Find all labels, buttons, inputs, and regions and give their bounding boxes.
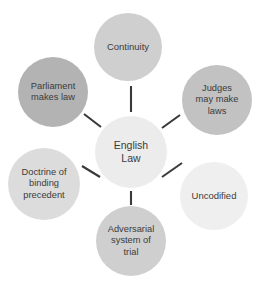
node-adversarial-system-of-trial[interactable]: Adversarial system of trial (96, 206, 166, 276)
node-english-law-center[interactable]: English Law (95, 116, 167, 188)
node-continuity-label: Continuity (103, 41, 153, 53)
connector-center-to-uncodified (162, 163, 182, 177)
node-judges-may-make-laws-label: Judges may make laws (192, 83, 243, 117)
node-english-law-center-label: English Law (110, 139, 152, 165)
node-doctrine-of-binding-precedent[interactable]: Doctrine of binding precedent (8, 148, 80, 220)
node-uncodified-label: Uncodified (188, 190, 241, 202)
node-judges-may-make-laws[interactable]: Judges may make laws (182, 65, 252, 135)
connector-center-to-parliament (84, 114, 101, 127)
node-doctrine-of-binding-precedent-label: Doctrine of binding precedent (18, 167, 71, 201)
connector-center-to-doctrine (82, 166, 100, 177)
node-adversarial-system-of-trial-label: Adversarial system of trial (104, 224, 159, 258)
node-parliament-makes-law[interactable]: Parliament makes law (18, 57, 88, 127)
concept-map-diagram: Continuity Parliament makes law Judges m… (0, 0, 263, 286)
connector-center-to-judges (162, 115, 180, 128)
node-uncodified[interactable]: Uncodified (180, 162, 248, 230)
node-continuity[interactable]: Continuity (94, 13, 162, 81)
node-parliament-makes-law-label: Parliament makes law (27, 81, 79, 104)
